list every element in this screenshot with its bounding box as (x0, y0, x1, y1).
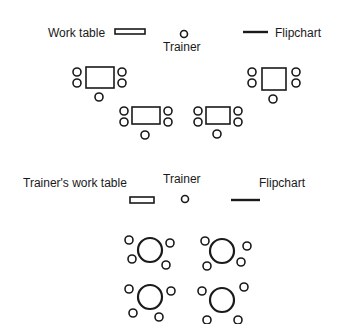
group-table-top-right (248, 68, 300, 103)
round-table-top-right (201, 237, 251, 270)
work-table-bottom (130, 197, 154, 203)
work-table-top (115, 29, 145, 34)
group-table-middle-right (194, 107, 242, 138)
trainer-position-bottom (182, 196, 189, 203)
seating-diagram (0, 0, 342, 324)
round-table-bottom-right (198, 283, 248, 324)
group-table-middle-left (120, 107, 172, 139)
group-table-top-left (73, 67, 126, 101)
round-table-bottom-left (125, 285, 175, 321)
round-table-top-left (125, 236, 174, 269)
trainer-position-top (181, 31, 188, 38)
